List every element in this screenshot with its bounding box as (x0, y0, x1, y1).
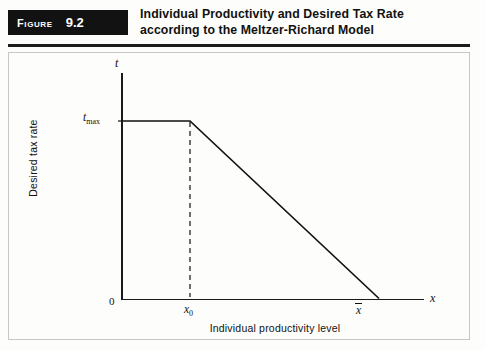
x-axis-line (121, 299, 424, 301)
xbar-tick-label: x (355, 303, 362, 316)
figure-header: Figure 9.2 Individual Productivity and D… (0, 0, 485, 50)
figure-number-badge: Figure 9.2 (8, 10, 128, 35)
y-axis-symbol: t (115, 56, 118, 71)
tmax-subscript: max (86, 117, 100, 126)
y-axis-line (121, 73, 123, 300)
origin-label: 0 (109, 295, 115, 307)
figure-title: Individual Productivity and Desired Tax … (140, 6, 470, 38)
x-axis-title: Individual productivity level (155, 322, 395, 334)
y-max-tick-label: tmax (83, 111, 100, 126)
x-axis-symbol: x (430, 291, 435, 306)
figure-title-line-1: Individual Productivity and Desired Tax … (140, 6, 470, 22)
xbar-base: x (355, 303, 362, 316)
figure-label-word: Figure (17, 17, 53, 29)
x0-subscript: 0 (189, 309, 193, 318)
header-divider (8, 44, 470, 47)
figure-page: Figure 9.2 Individual Productivity and D… (0, 0, 485, 350)
chart-frame (8, 52, 470, 340)
y-axis-title: Desired tax rate (27, 88, 39, 228)
figure-title-line-2: according to the Meltzer-Richard Model (140, 22, 470, 38)
figure-number: 9.2 (66, 15, 84, 30)
x0-tick-label: x0 (184, 303, 193, 318)
